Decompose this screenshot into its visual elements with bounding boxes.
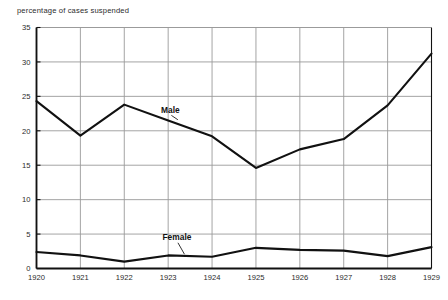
series-label-female: Female (163, 232, 192, 242)
vertical-gridlines (37, 28, 432, 269)
data-series-lines (37, 54, 432, 262)
y-tick-label-35: 35 (22, 23, 30, 32)
series-line-male (37, 54, 432, 168)
chart-figure: percentage of cases suspended 0510152025… (0, 0, 448, 300)
y-tick-label-30: 30 (22, 58, 30, 67)
leader-line-female (178, 243, 185, 254)
series-label-male: Male (161, 105, 180, 115)
x-tick-label-1924: 1924 (204, 273, 221, 282)
y-tick-label-25: 25 (22, 92, 30, 101)
x-tick-label-1927: 1927 (335, 273, 352, 282)
x-tick-label-1921: 1921 (72, 273, 89, 282)
x-tick-label-1929: 1929 (423, 273, 440, 282)
horizontal-gridlines (37, 28, 432, 235)
x-tick-label-1922: 1922 (116, 273, 133, 282)
x-axis-tick-labels: 1920192119221923192419251926192719281929 (28, 273, 440, 282)
x-tick-label-1926: 1926 (291, 273, 308, 282)
y-tick-label-15: 15 (22, 161, 30, 170)
y-tick-label-10: 10 (22, 195, 30, 204)
series-line-female (37, 247, 432, 261)
y-tick-label-0: 0 (26, 264, 30, 273)
line-chart: 05101520253035 1920192119221923192419251… (0, 0, 448, 300)
series-inline-labels: MaleFemale (161, 105, 192, 242)
chart-axes (37, 28, 432, 269)
x-tick-label-1928: 1928 (379, 273, 396, 282)
leader-line-male (171, 115, 178, 119)
x-tick-label-1925: 1925 (247, 273, 264, 282)
x-tick-label-1923: 1923 (160, 273, 177, 282)
y-tick-label-20: 20 (22, 127, 30, 136)
x-tick-label-1920: 1920 (28, 273, 45, 282)
y-tick-label-5: 5 (26, 230, 30, 239)
y-axis-tick-labels: 05101520253035 (22, 23, 30, 273)
